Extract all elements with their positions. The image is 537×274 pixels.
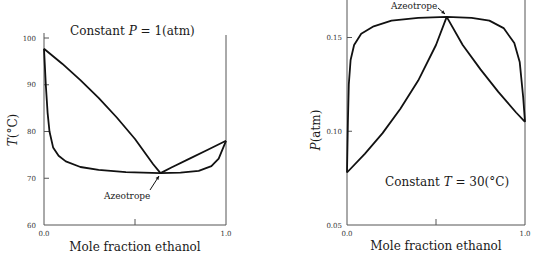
curve-series-2 [347, 17, 525, 173]
y-tick-label: 60 [27, 222, 36, 230]
y-axis-title: T(°C) [6, 114, 20, 147]
x-tick-label: 1.0 [220, 230, 231, 238]
curve-series-1 [44, 49, 226, 173]
x-tick-label: 0.0 [38, 230, 49, 238]
y-tick-label: 70 [27, 175, 36, 183]
azeotrope-label: Azeotrope [390, 1, 437, 11]
y-tick-label: 0.10 [326, 128, 342, 136]
y-axis-title: P(atm) [309, 110, 323, 152]
chart-title: Constant T = 30(°C) [385, 175, 509, 189]
axes-frame [347, 0, 525, 225]
y-tick-label: 0.15 [326, 34, 342, 42]
x-tick-label: 0.0 [341, 230, 352, 238]
txy-chart: 607080901000.01.0Constant P = 1(atm)T(°C… [0, 0, 268, 274]
y-tick-label: 90 [27, 81, 36, 89]
chart-title: Constant P = 1(atm) [70, 24, 195, 38]
curve-series-1 [347, 17, 525, 173]
y-tick-label: 0.05 [326, 222, 342, 230]
x-axis-title: Mole fraction ethanol [69, 240, 201, 254]
pxy-diagram-panel: 0.050.100.150.01.0Constant T = 30(°C)P(a… [268, 0, 537, 274]
y-tick-label: 100 [23, 35, 36, 43]
txy-diagram-panel: 607080901000.01.0Constant P = 1(atm)T(°C… [0, 0, 268, 274]
x-tick-label: 1.0 [519, 230, 530, 238]
x-axis-title: Mole fraction ethanol [370, 239, 502, 253]
pxy-chart: 0.050.100.150.01.0Constant T = 30(°C)P(a… [268, 0, 537, 274]
azeotrope-label: Azeotrope [103, 191, 150, 201]
y-tick-label: 80 [27, 128, 36, 136]
